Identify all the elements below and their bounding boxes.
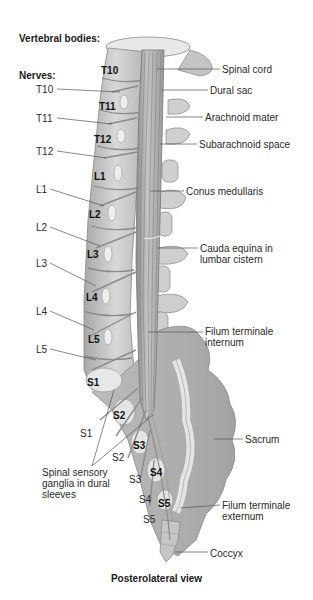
nerve-label-s1: S1: [80, 428, 92, 439]
nerve-label-s5: S5: [143, 514, 155, 525]
nerve-label-t10: T10: [36, 84, 53, 95]
vertebra-label-s1: S1: [87, 377, 99, 388]
vertebra-label-t10: T10: [101, 65, 118, 76]
label-dural-sac: Dural sac: [210, 85, 252, 96]
nerve-label-l5: L5: [36, 344, 47, 355]
nerve-label-s4: S4: [139, 494, 151, 505]
vertebra-label-l3: L3: [87, 249, 99, 260]
vertebra-label-s3: S3: [133, 440, 145, 451]
nerves-header: Nerves:: [19, 70, 56, 81]
label-sacrum: Sacrum: [245, 434, 279, 445]
vertebra-label-t12: T12: [94, 134, 111, 145]
label-filum-terminale-internum: Filum terminale internum: [205, 326, 295, 348]
label-arachnoid-mater: Arachnoid mater: [205, 112, 278, 123]
label-spinal-sensory-ganglia: Spinal sensory ganglia in dural sleeves: [42, 467, 134, 500]
nerve-label-l4: L4: [36, 306, 47, 317]
vertebra-label-l2: L2: [89, 209, 101, 220]
label-cauda-equina: Cauda equina in lumbar cistern: [200, 243, 292, 265]
label-spinal-cord: Spinal cord: [222, 64, 272, 75]
vertebra-label-l1: L1: [94, 171, 106, 182]
vertebra-label-s2: S2: [113, 410, 125, 421]
nerve-label-l3: L3: [36, 258, 47, 269]
nerve-label-t12: T12: [36, 146, 53, 157]
vertebral-bodies-header: Vertebral bodies:: [19, 33, 100, 44]
vertebra-label-l5: L5: [88, 334, 100, 345]
label-filum-terminale-externum: Filum terminale externum: [222, 500, 302, 522]
view-caption: Posterolateral view: [0, 573, 313, 584]
nerve-label-l1: L1: [36, 184, 47, 195]
nerve-label-t11: T11: [36, 113, 53, 124]
vertebra-label-l4: L4: [86, 292, 98, 303]
label-coccyx: Coccyx: [210, 548, 243, 559]
label-subarachnoid-space: Subarachnoid space: [199, 139, 290, 150]
nerve-label-s2: S2: [112, 452, 124, 463]
label-conus-medullaris: Conus medullaris: [186, 186, 263, 197]
vertebra-label-s4: S4: [150, 467, 162, 478]
nerve-label-l2: L2: [36, 222, 47, 233]
vertebra-label-t11: T11: [99, 101, 116, 112]
vertebra-label-s5: S5: [158, 498, 170, 509]
